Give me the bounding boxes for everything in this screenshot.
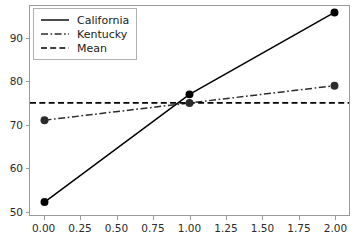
x-tick-label: 2.00 (324, 223, 347, 234)
x-tick-mark (226, 216, 227, 220)
x-tick-label: 0.50 (105, 223, 128, 234)
legend-label-california: California (77, 15, 129, 26)
x-tick-label: 0.75 (141, 223, 164, 234)
x-tick-mark (262, 216, 263, 220)
data-point-california (41, 198, 49, 206)
x-tick-label: 1.50 (251, 223, 274, 234)
data-point-kentucky (41, 116, 49, 124)
x-tick-mark (190, 216, 191, 220)
y-tick-label: 60 (0, 163, 23, 174)
legend-item-california: California (40, 13, 129, 27)
x-tick-label: 0.25 (68, 223, 91, 234)
legend-label-kentucky: Kentucky (77, 29, 127, 40)
data-point-california (331, 9, 339, 17)
y-tick-label: 70 (0, 119, 23, 130)
x-tick-label: 1.25 (214, 223, 237, 234)
legend-item-kentucky: Kentucky (40, 27, 129, 41)
data-point-kentucky (331, 82, 339, 90)
chart-legend: California Kentucky Mean (33, 8, 137, 60)
legend-line-sample-dashed (40, 43, 70, 53)
legend-label-mean: Mean (77, 43, 107, 54)
x-tick-mark (335, 216, 336, 220)
x-tick-mark (153, 216, 154, 220)
legend-line-sample-dashdot (40, 29, 70, 39)
data-point-california (186, 90, 194, 98)
x-tick-label: 1.75 (287, 223, 310, 234)
data-point-kentucky (186, 99, 194, 107)
x-tick-label: 1.00 (178, 223, 201, 234)
legend-item-mean: Mean (40, 41, 129, 55)
x-tick-mark (44, 216, 45, 220)
y-tick-label: 90 (0, 32, 23, 43)
y-tick-label: 50 (0, 206, 23, 217)
x-tick-mark (80, 216, 81, 220)
x-tick-mark (117, 216, 118, 220)
x-tick-mark (299, 216, 300, 220)
legend-line-sample-solid (40, 15, 70, 25)
y-tick-label: 80 (0, 76, 23, 87)
chart-figure: 5060708090 0.000.250.500.751.001.251.501… (0, 0, 360, 247)
x-tick-label: 0.00 (32, 223, 55, 234)
